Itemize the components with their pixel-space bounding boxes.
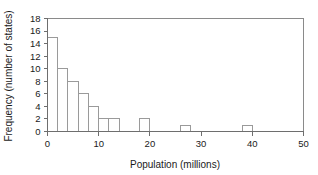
x-axis-tick-labels: 01020304050: [45, 138, 309, 149]
bar-10-12: [99, 119, 109, 132]
y-tick-label-18: 18: [30, 13, 41, 24]
y-axis-ticks: [44, 19, 48, 132]
bar-4-6: [68, 81, 78, 131]
bar-2-4: [58, 69, 68, 132]
y-tick-label-16: 16: [30, 25, 41, 36]
y-tick-label-14: 14: [30, 38, 41, 49]
y-axis-tick-labels: 024681012141618: [30, 13, 41, 137]
y-tick-label-10: 10: [30, 63, 41, 74]
y-tick-label-8: 8: [35, 76, 40, 87]
bar-12-14: [109, 119, 119, 132]
x-tick-label-0: 0: [45, 138, 50, 149]
x-tick-label-20: 20: [145, 138, 156, 149]
bar-26-28: [181, 125, 191, 131]
histogram-chart: 024681012141618 01020304050 Population (…: [0, 0, 318, 175]
x-tick-label-30: 30: [196, 138, 207, 149]
y-tick-label-2: 2: [35, 113, 40, 124]
bar-0-2: [48, 37, 58, 131]
x-axis-ticks: [48, 132, 304, 136]
x-axis-title: Population (millions): [130, 159, 220, 170]
y-tick-label-0: 0: [35, 126, 40, 137]
y-tick-label-4: 4: [35, 101, 40, 112]
y-axis-title: Frequency (number of states): [3, 10, 14, 141]
x-tick-label-40: 40: [247, 138, 258, 149]
bar-18-20: [140, 119, 150, 132]
bar-38-40: [242, 125, 252, 131]
bars-group: [48, 37, 253, 131]
x-tick-label-50: 50: [298, 138, 309, 149]
y-tick-label-6: 6: [35, 88, 40, 99]
bar-6-8: [78, 94, 88, 132]
chart-canvas: 024681012141618 01020304050 Population (…: [0, 0, 318, 175]
x-tick-label-10: 10: [93, 138, 104, 149]
bar-8-10: [88, 106, 98, 131]
y-tick-label-12: 12: [30, 51, 41, 62]
